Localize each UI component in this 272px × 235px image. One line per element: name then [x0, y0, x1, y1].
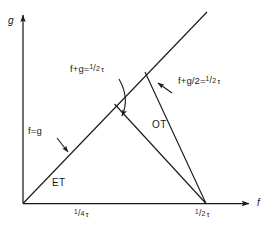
leader-arrow-f-plus-g-over-2 [158, 83, 172, 93]
fraction-numerator: 1 [195, 208, 199, 215]
label-f-plus-g-half-tau: f+g=1/2τ [70, 64, 104, 74]
fraction-one-quarter: 1/4 [74, 209, 85, 218]
tau-symbol: τ [216, 77, 220, 86]
tau-symbol: τ [206, 210, 210, 219]
leader-arrow-f-equals-g [57, 138, 68, 152]
f-axis-label: f [257, 198, 260, 208]
g-axis-label: g [8, 16, 14, 26]
tau-symbol: τ [100, 65, 104, 74]
fraction-denominator: 2 [96, 65, 100, 73]
label-f-plus-g-over-2-prefix: f+g/2= [178, 75, 206, 86]
label-f-plus-g-prefix: f+g= [70, 63, 89, 74]
fraction-numerator: 1 [74, 208, 78, 215]
label-f-plus-g-over-2-half-tau: f+g/2=1/2τ [178, 76, 220, 86]
line-f-plus-g-over-2-half-tau [145, 72, 206, 204]
fraction-denominator: 2 [202, 210, 206, 218]
fraction-numerator: 1 [206, 75, 210, 82]
fraction-one-half-c: 1/2 [195, 209, 206, 218]
fraction-numerator: 1 [89, 63, 93, 70]
region-label-et: ET [52, 178, 66, 188]
fraction-one-half-a: 1/2 [89, 64, 100, 73]
region-label-ot: OT [152, 120, 167, 130]
fraction-denominator: 2 [212, 77, 216, 85]
diagram-svg [0, 0, 272, 235]
figure-canvas: g f f=g f+g=1/2τ f+g/2=1/2τ ET OT 1/4τ 1… [0, 0, 272, 235]
label-f-equals-g: f=g [28, 126, 42, 136]
tau-symbol: τ [85, 210, 89, 219]
x-tick-label-half-tau: 1/2τ [195, 209, 210, 219]
fraction-one-half-b: 1/2 [206, 76, 217, 85]
fraction-denominator: 4 [81, 210, 85, 218]
x-tick-label-quarter-tau: 1/4τ [74, 209, 89, 219]
